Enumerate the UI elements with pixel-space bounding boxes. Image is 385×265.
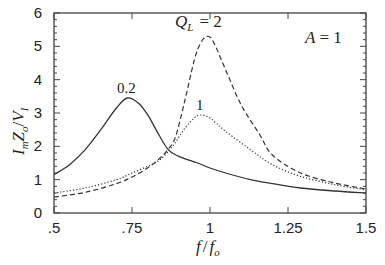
annotation-0-2: 0.2 [117, 80, 136, 96]
curve-solid [54, 98, 366, 193]
annotation-ql2: QL= 2 [175, 12, 222, 33]
x-tick-label: .5 [48, 219, 61, 236]
curve-dashed [54, 36, 366, 197]
curves [54, 36, 366, 197]
y-tick-label: 0 [34, 204, 42, 221]
annotation-1: 1 [196, 97, 204, 113]
x-tick-label: .75 [122, 219, 143, 236]
chart: 0123456 .5.7511.251.5 A= 1 QL= 2 0.2 1 f… [0, 0, 385, 265]
x-tick-label: 1 [206, 219, 214, 236]
y-tick-label: 1 [34, 171, 42, 188]
y-tick-label: 4 [34, 71, 42, 88]
curve-dotted [54, 115, 366, 193]
y-tick-label: 5 [34, 37, 42, 54]
svg-text:ImZo/VI: ImZo/VI [9, 106, 30, 156]
x-tick-label: 1.5 [356, 219, 377, 236]
y-tick-label: 6 [34, 4, 42, 21]
y-tick-label: 2 [34, 137, 42, 154]
y-tick-label: 3 [34, 104, 42, 121]
x-axis-label: f/fo [196, 237, 220, 258]
y-axis-label: ImZo/VI [9, 106, 30, 156]
x-tick-label: 1.25 [273, 219, 302, 236]
annotation-a: A= 1 [304, 28, 342, 47]
